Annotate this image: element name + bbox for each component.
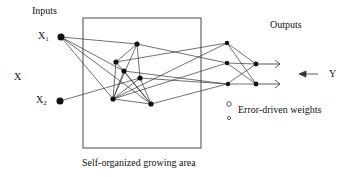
hidden-node xyxy=(148,101,153,106)
x-label: X xyxy=(14,72,21,82)
area-label: Self-organized growing area xyxy=(82,158,196,168)
legend-circle-icon xyxy=(227,102,232,107)
hidden-node xyxy=(137,75,142,80)
input-node-x2 xyxy=(57,98,64,105)
y-label: Y xyxy=(329,69,336,79)
x1-label: X1 xyxy=(38,31,49,43)
output-arrows xyxy=(256,60,280,88)
inputs-label: Inputs xyxy=(32,6,57,16)
legend-label: Error-driven weights xyxy=(238,105,321,115)
nodes xyxy=(57,34,259,107)
hidden-node xyxy=(121,68,126,73)
outputs-label: Outputs xyxy=(270,20,302,30)
right-layer-node xyxy=(225,61,229,65)
input-node-x1 xyxy=(58,34,65,41)
hidden-node xyxy=(134,41,139,46)
connections xyxy=(60,37,256,104)
output-node xyxy=(254,82,259,87)
x2-sub: 2 xyxy=(43,99,47,107)
x2-label: X2 xyxy=(36,95,47,107)
hidden-node xyxy=(113,59,118,64)
legend-circle-small-icon xyxy=(227,116,230,119)
right-layer-node xyxy=(225,41,229,45)
hidden-node xyxy=(110,96,115,101)
x1-sub: 1 xyxy=(45,35,49,43)
right-layer-node xyxy=(226,82,230,86)
output-node xyxy=(254,62,259,67)
target-arrow xyxy=(299,71,318,77)
